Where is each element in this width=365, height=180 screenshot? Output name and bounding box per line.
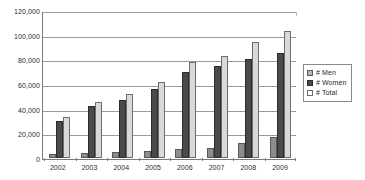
bar-group <box>202 12 234 158</box>
bar-group <box>139 12 171 158</box>
bar-total <box>158 82 165 158</box>
legend-item[interactable]: # Women <box>307 78 347 88</box>
x-axis-tick-label: 2006 <box>169 164 201 172</box>
bar-men <box>207 148 214 158</box>
bar-total <box>189 62 196 158</box>
legend-item-label: # Total <box>316 89 337 97</box>
x-axis-tick-label: 2008 <box>233 164 265 172</box>
bar-women <box>277 53 284 158</box>
legend-item-label: # Men <box>316 69 336 77</box>
x-axis-tick-label: 2002 <box>42 164 74 172</box>
x-axis-tick <box>233 158 234 161</box>
x-axis-tick <box>44 158 45 161</box>
y-axis-tick-label: 0 <box>0 156 40 163</box>
bar-men <box>81 153 88 158</box>
y-axis-tick-labels: 020,00040,00060,00080,000100,000120,000 <box>0 0 40 180</box>
x-axis-tick-label: 2007 <box>201 164 233 172</box>
bar-group <box>44 12 76 158</box>
y-axis-tick-label: 100,000 <box>0 33 40 40</box>
x-axis-tick <box>76 158 77 161</box>
x-axis-tick <box>295 158 296 161</box>
bar-chart: 020,00040,00060,00080,000100,000120,000 … <box>0 0 365 180</box>
bar-men <box>49 154 56 158</box>
women-swatch-icon <box>307 80 313 86</box>
x-axis-tick-label: 2004 <box>106 164 138 172</box>
bar-women <box>214 66 221 158</box>
plot-area <box>42 12 296 160</box>
bar-women <box>245 59 252 158</box>
y-axis-tick-label: 80,000 <box>0 57 40 64</box>
y-axis-tick-label: 120,000 <box>0 8 40 15</box>
bar-total <box>221 56 228 158</box>
legend-item-label: # Women <box>316 79 347 87</box>
x-axis-tick <box>170 158 171 161</box>
bar-total <box>284 31 291 158</box>
bar-women <box>182 72 189 158</box>
bar-group <box>76 12 108 158</box>
x-axis-tick-labels: 20022003200420052006200720082009 <box>42 164 296 172</box>
bar-total <box>95 102 102 158</box>
x-axis-tick <box>202 158 203 161</box>
bar-group <box>265 12 297 158</box>
bar-men <box>270 137 277 158</box>
total-swatch-icon <box>307 90 313 96</box>
bar-men <box>144 151 151 158</box>
bar-women <box>56 121 63 158</box>
bar-total <box>126 94 133 158</box>
y-axis-tick-label: 20,000 <box>0 131 40 138</box>
y-axis-tick-label: 60,000 <box>0 82 40 89</box>
men-swatch-icon <box>307 70 313 76</box>
x-axis-tick <box>265 158 266 161</box>
bar-total <box>252 42 259 158</box>
bar-groups <box>44 12 296 158</box>
bar-men <box>112 152 119 158</box>
legend-item[interactable]: # Men <box>307 68 347 78</box>
y-axis-tick-label: 40,000 <box>0 107 40 114</box>
bar-women <box>88 106 95 158</box>
plot-frame-right-edge <box>296 12 297 16</box>
bar-group <box>233 12 265 158</box>
x-axis-tick <box>139 158 140 161</box>
x-axis-tick-label: 2005 <box>137 164 169 172</box>
x-axis-tick-label: 2009 <box>264 164 296 172</box>
bar-women <box>151 89 158 158</box>
bar-total <box>63 117 70 158</box>
legend-item[interactable]: # Total <box>307 88 347 98</box>
bar-group <box>107 12 139 158</box>
bar-men <box>175 149 182 158</box>
x-axis-tick-label: 2003 <box>74 164 106 172</box>
x-axis-tick <box>107 158 108 161</box>
bar-group <box>170 12 202 158</box>
bar-men <box>238 143 245 158</box>
bar-women <box>119 100 126 158</box>
chart-legend: # Men# Women# Total <box>303 64 352 102</box>
